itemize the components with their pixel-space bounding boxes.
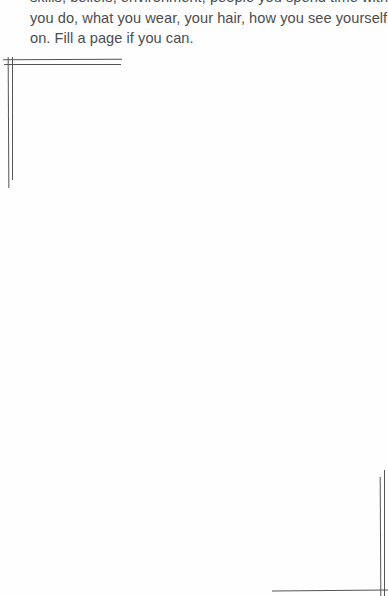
journal-page: skills, beliefs, environment, people you… bbox=[0, 0, 388, 596]
top-left-vertical-inner bbox=[12, 57, 13, 180]
bottom-right-horizontal bbox=[272, 590, 388, 592]
bottom-right-vertical-outer bbox=[384, 470, 385, 596]
journal-prompt: skills, beliefs, environment, people you… bbox=[30, 0, 380, 49]
prompt-line-1: skills, beliefs, environment, people you… bbox=[30, 0, 380, 8]
prompt-line-3: on. Fill a page if you can. bbox=[30, 28, 380, 49]
top-left-horizontal-outer bbox=[3, 59, 122, 61]
prompt-line-2: you do, what you wear, your hair, how yo… bbox=[30, 8, 380, 29]
bottom-right-vertical-inner bbox=[380, 477, 382, 596]
top-left-horizontal-inner bbox=[4, 64, 121, 65]
top-left-vertical-outer bbox=[8, 57, 10, 188]
